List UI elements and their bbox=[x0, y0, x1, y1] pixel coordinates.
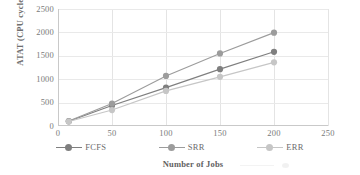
line-chart: 05001000150020002500 ATAT (CPU cycles) 0… bbox=[0, 0, 360, 175]
legend-swatch-icon bbox=[159, 143, 185, 152]
y-axis-tick-label: 500 bbox=[20, 98, 54, 107]
x-axis-tick-label: 200 bbox=[259, 128, 289, 138]
x-axis-tick-label: 0 bbox=[43, 128, 73, 138]
series-err bbox=[66, 59, 277, 124]
series-srr bbox=[66, 30, 277, 125]
legend-item-fcfs[interactable]: FCFS bbox=[56, 143, 106, 152]
data-point-marker bbox=[217, 66, 223, 72]
x-axis-tick-label: 150 bbox=[205, 128, 235, 138]
legend-label: SRR bbox=[188, 143, 205, 152]
y-axis-title: ATAT (CPU cycles) bbox=[15, 0, 25, 81]
data-point-marker bbox=[271, 30, 277, 36]
scan-artifact-line bbox=[240, 165, 274, 166]
data-point-marker bbox=[217, 74, 223, 80]
data-point-marker bbox=[271, 49, 277, 55]
legend-item-err[interactable]: ERR bbox=[257, 143, 303, 152]
data-point-marker bbox=[271, 59, 277, 65]
y-axis-tick-label: 2500 bbox=[20, 5, 54, 14]
data-point-marker bbox=[109, 107, 115, 113]
data-point-marker bbox=[66, 118, 72, 124]
x-axis-tick-labels: 050100150200250 bbox=[58, 128, 328, 140]
x-axis-tick-label: 100 bbox=[151, 128, 181, 138]
legend-swatch-icon bbox=[56, 143, 82, 152]
data-point-marker bbox=[163, 88, 169, 94]
series-fcfs bbox=[66, 49, 277, 125]
data-point-marker bbox=[217, 50, 223, 56]
legend-item-srr[interactable]: SRR bbox=[159, 143, 205, 152]
y-axis-tick-label: 1000 bbox=[20, 75, 54, 84]
y-axis-tick-label: 1500 bbox=[20, 51, 54, 60]
scan-artifact-marker bbox=[282, 163, 289, 168]
data-point-marker bbox=[109, 100, 115, 106]
series-line bbox=[69, 33, 274, 121]
x-axis-tick-label: 250 bbox=[313, 128, 343, 138]
legend-label: ERR bbox=[286, 143, 303, 152]
legend-label: FCFS bbox=[85, 143, 106, 152]
chart-legend: FCFSSRRERR bbox=[30, 140, 330, 154]
series-line bbox=[69, 52, 274, 122]
series-lines bbox=[58, 9, 328, 126]
data-point-marker bbox=[163, 73, 169, 79]
plot-area bbox=[58, 9, 328, 126]
x-axis-tick-label: 50 bbox=[97, 128, 127, 138]
series-line bbox=[69, 62, 274, 121]
legend-swatch-icon bbox=[257, 143, 283, 152]
y-axis-tick-label: 2000 bbox=[20, 28, 54, 37]
vertical-gridline bbox=[328, 9, 329, 126]
